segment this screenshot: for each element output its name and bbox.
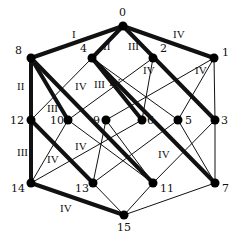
edge-label: IV	[75, 80, 87, 92]
node-label-15: 15	[117, 221, 131, 234]
node-label-13: 13	[75, 182, 89, 195]
node-label-12: 12	[10, 114, 24, 127]
edge-label: III	[47, 102, 58, 114]
edge-label: I	[72, 28, 76, 40]
node-8	[27, 54, 36, 63]
node-label-2: 2	[160, 42, 167, 55]
node-9	[102, 116, 111, 125]
node-label-8: 8	[15, 44, 22, 57]
edge-label: IV	[195, 64, 207, 76]
edge-label: IV	[109, 76, 121, 88]
node-2	[149, 54, 158, 63]
node-label-3: 3	[221, 114, 228, 127]
edge-1-3	[214, 58, 215, 120]
diagram-canvas: 0842112109653141311715 IIIIIIIVIIIVIIIIV…	[0, 0, 241, 242]
edge-label: IV	[60, 202, 72, 214]
node-10	[64, 116, 73, 125]
hypercube-diagram: 0842112109653141311715 IIIIIIIVIIIVIIIIV…	[0, 0, 241, 242]
edge-label: IV	[158, 148, 170, 160]
node-12	[27, 116, 36, 125]
edge-label: IV	[47, 153, 59, 165]
node-6	[138, 116, 147, 125]
node-5	[174, 116, 183, 125]
node-3	[211, 116, 220, 125]
node-labels: 0842112109653141311715	[10, 6, 229, 234]
node-0	[119, 22, 128, 31]
node-1	[210, 54, 219, 63]
node-4	[88, 54, 97, 63]
edge-label: II	[103, 40, 111, 52]
edge-label: III	[94, 78, 105, 90]
node-label-1: 1	[222, 46, 229, 59]
edge-label: III	[17, 146, 28, 158]
node-7	[211, 179, 220, 188]
edge-label: III	[128, 40, 139, 52]
node-13	[89, 179, 98, 188]
node-11	[149, 179, 158, 188]
edge-label: II	[17, 80, 25, 92]
node-label-10: 10	[50, 114, 64, 127]
edge-label: IV	[75, 140, 87, 152]
node-14	[27, 179, 36, 188]
node-label-7: 7	[222, 182, 229, 195]
node-label-11: 11	[160, 182, 174, 195]
node-label-9: 9	[93, 114, 100, 127]
node-label-6: 6	[147, 114, 154, 127]
edge-label: IV	[143, 64, 155, 76]
node-label-4: 4	[80, 42, 87, 55]
node-label-5: 5	[185, 114, 192, 127]
node-label-0: 0	[119, 6, 126, 19]
node-label-14: 14	[11, 182, 25, 195]
edge-label: IV	[173, 28, 185, 40]
node-15	[120, 211, 129, 220]
